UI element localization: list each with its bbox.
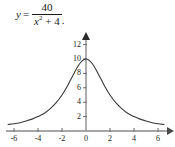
x-tick-label: -2 — [59, 135, 66, 143]
x-tick-label: 2 — [108, 135, 112, 143]
x-tick-label: 0 — [84, 135, 88, 143]
x-tick-label: 6 — [156, 135, 160, 143]
function-plot: -6-4-20246 24681012 — [0, 0, 175, 147]
y-tick-label: 10 — [73, 55, 81, 63]
x-tick-label: -6 — [11, 135, 18, 143]
y-tick-label: 12 — [73, 41, 81, 49]
y-tick-label: 8 — [77, 69, 81, 77]
plot-canvas — [0, 0, 175, 147]
x-axis-arrow-icon — [167, 127, 174, 135]
x-tick-label: -4 — [35, 135, 42, 143]
x-tick-label: 4 — [132, 135, 136, 143]
y-tick-label: 6 — [77, 84, 81, 92]
y-axis-arrow-icon — [82, 32, 90, 40]
y-tick-label: 2 — [77, 113, 81, 121]
y-tick-label: 4 — [77, 98, 81, 106]
